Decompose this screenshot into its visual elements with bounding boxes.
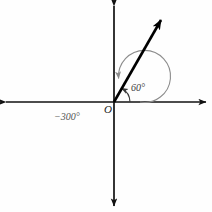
origin-label: O bbox=[104, 104, 112, 115]
negative-300-arc bbox=[119, 50, 171, 102]
angle-label-neg300: −300° bbox=[54, 112, 80, 122]
positive-60-arc bbox=[122, 88, 130, 102]
figure-canvas: O 60° −300° bbox=[0, 0, 212, 212]
angle-label-60: 60° bbox=[131, 83, 145, 93]
